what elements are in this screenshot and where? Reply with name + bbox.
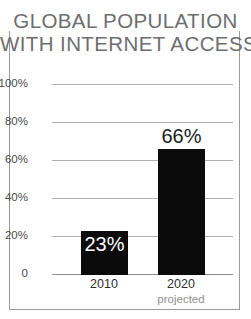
- infographic-chart: GLOBAL POPULATION WITH INTERNET ACCESS 1…: [0, 0, 251, 319]
- chart-title-line-1: GLOBAL POPULATION: [7, 10, 243, 31]
- gridline-100: [52, 84, 233, 85]
- plot-area: 100% 80% 60% 40% 20% 0 23% 66% 2010 2020…: [52, 84, 233, 275]
- xtick-label-2010: 2010: [64, 277, 144, 293]
- xtick-2010: 2010: [64, 277, 144, 293]
- ytick-label-20: 20%: [0, 230, 28, 242]
- chart-title: GLOBAL POPULATION WITH INTERNET ACCESS: [0, 10, 251, 54]
- gridline-80: [52, 122, 233, 123]
- xtick-sublabel-2020: projected: [141, 293, 221, 307]
- ytick-label-60: 60%: [0, 154, 28, 166]
- axis-baseline: [52, 274, 233, 275]
- chart-title-line-2: WITH INTERNET ACCESS: [0, 33, 251, 54]
- xtick-2020: 2020 projected: [141, 277, 221, 306]
- ytick-label-100: 100%: [0, 78, 28, 90]
- gridline-60: [52, 160, 233, 161]
- gridline-40: [52, 198, 233, 199]
- bar-value-2010: 23%: [81, 234, 128, 254]
- gridline-20: [52, 236, 233, 237]
- bar-value-2020: 66%: [158, 126, 205, 146]
- ytick-label-0: 0: [0, 268, 28, 280]
- xtick-label-2020: 2020: [141, 277, 221, 293]
- bar-2020[interactable]: [158, 149, 205, 275]
- ytick-label-80: 80%: [0, 116, 28, 128]
- ytick-label-40: 40%: [0, 192, 28, 204]
